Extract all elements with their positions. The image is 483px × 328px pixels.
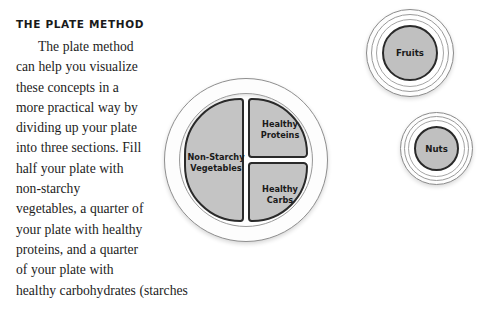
- side-bowl-nuts: Nuts: [400, 112, 473, 185]
- segment-label-carbs-line2: Carbs: [267, 195, 293, 205]
- body-paragraph: The plate method can help you visualize …: [16, 37, 144, 301]
- segment-label-vegetables-line2: Vegetables: [190, 163, 241, 173]
- segment-label-carbs: Healthy Carbs: [254, 184, 306, 205]
- nuts-bowl-core: Nuts: [414, 126, 459, 171]
- segment-label-vegetables-line1: Non-Starchy: [187, 152, 244, 162]
- plate-well: Non-Starchy Vegetables Healthy Proteins …: [184, 98, 308, 222]
- nuts-bowl-label: Nuts: [425, 144, 448, 154]
- segment-label-proteins-line2: Proteins: [261, 130, 300, 140]
- segment-label-carbs-line1: Healthy: [262, 184, 298, 194]
- segment-label-proteins: Healthy Proteins: [254, 119, 306, 140]
- plate-diagram: Non-Starchy Vegetables Healthy Proteins …: [164, 78, 328, 242]
- body-paragraph-main: The plate method can help you visualize …: [16, 39, 143, 277]
- segment-label-vegetables: Non-Starchy Vegetables: [184, 152, 248, 173]
- fruits-bowl-core: Fruits: [382, 25, 438, 81]
- body-paragraph-last-line: healthy carbohydrates (starches: [16, 281, 266, 301]
- segment-label-proteins-line1: Healthy: [262, 119, 298, 129]
- fruits-bowl-label: Fruits: [396, 48, 424, 58]
- plate-method-illustration: THE PLATE METHOD The plate method can he…: [0, 0, 483, 328]
- page-title: THE PLATE METHOD: [16, 18, 266, 30]
- side-bowl-fruits: Fruits: [366, 9, 454, 97]
